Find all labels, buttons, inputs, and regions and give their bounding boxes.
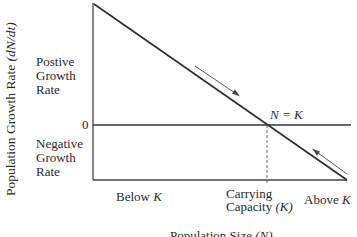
zero-tick-label: 0 — [82, 118, 89, 132]
capacity-text: Capacity — [226, 199, 275, 214]
positive-rate-label-2: Growth — [36, 69, 76, 83]
negative-rate-label-2: Growth — [36, 151, 76, 165]
carrying-capacity-label-2: Capacity (K) — [226, 200, 293, 214]
arrow-up-left-icon — [312, 149, 347, 175]
x-axis-title-var: (N) — [255, 228, 272, 237]
above-k-var: K — [342, 192, 351, 207]
arrow-down-right-icon — [195, 66, 240, 97]
x-axis-title: Population Size (N) — [170, 229, 273, 237]
negative-rate-label-1: Negative — [36, 137, 83, 151]
y-axis-title: Population Growth Rate (dN/dt) — [3, 22, 19, 196]
positive-rate-label-3: Rate — [36, 83, 60, 97]
y-axis-title-text: Population Growth Rate — [3, 61, 18, 196]
capacity-k-var: (K) — [275, 199, 292, 214]
above-text: Above — [304, 192, 342, 207]
n-equals-k-annotation: N = K — [270, 108, 303, 122]
growth-rate-line — [94, 4, 347, 180]
above-k-label: Above K — [304, 193, 351, 207]
below-k-var: K — [153, 189, 162, 204]
below-text: Below — [116, 189, 153, 204]
negative-rate-label-3: Rate — [36, 165, 60, 179]
positive-rate-label-1: Postive — [36, 55, 74, 69]
y-axis-title-var: (dN/dt) — [3, 22, 18, 61]
x-axis-title-text: Population Size — [170, 228, 255, 237]
below-k-label: Below K — [116, 190, 162, 204]
